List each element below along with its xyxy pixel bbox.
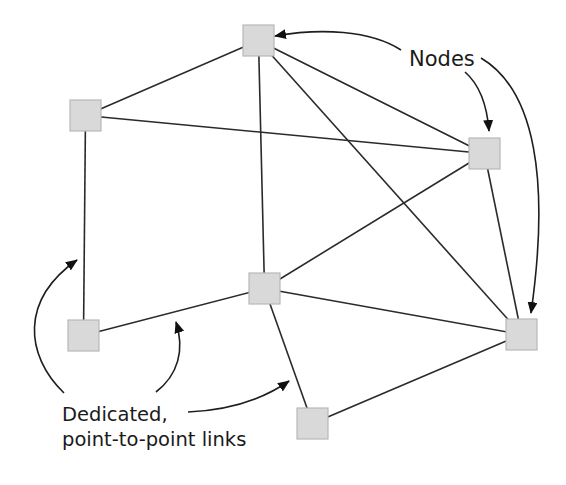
arrow-to-bottom-link [188, 381, 289, 412]
link-right-lower-right [485, 154, 522, 335]
node-lower-left [68, 320, 99, 351]
arrow-to-top-node [275, 32, 401, 50]
arrow-to-lower-left-link [156, 322, 180, 392]
link-center-lower-left [84, 289, 265, 336]
mesh-network-diagram: Nodes Dedicated, point-to-point links [0, 0, 566, 485]
nodes-callout-arrows [275, 32, 539, 313]
link-center-bottom [265, 289, 313, 424]
link-upper-left-lower-left [84, 116, 86, 336]
link-top-lower-right [259, 41, 522, 335]
link-center-lower-right [265, 289, 522, 335]
link-top-upper-left [86, 41, 259, 116]
node-lower-right [506, 319, 537, 350]
link-bottom-lower-right [313, 335, 522, 424]
nodes-label: Nodes [409, 47, 475, 71]
node-bottom [297, 408, 328, 439]
link-upper-left-right [86, 116, 485, 154]
links-label-line2: point-to-point links [62, 428, 246, 451]
point-to-point-links [84, 41, 522, 424]
arrow-to-right-node [465, 72, 489, 131]
links-label-line1: Dedicated, [62, 403, 168, 426]
node-right [469, 138, 500, 169]
link-right-center [265, 154, 485, 289]
link-top-center [259, 41, 265, 289]
node-top [243, 25, 274, 56]
node-center [249, 273, 280, 304]
network-nodes [68, 25, 537, 439]
node-upper-left [70, 100, 101, 131]
